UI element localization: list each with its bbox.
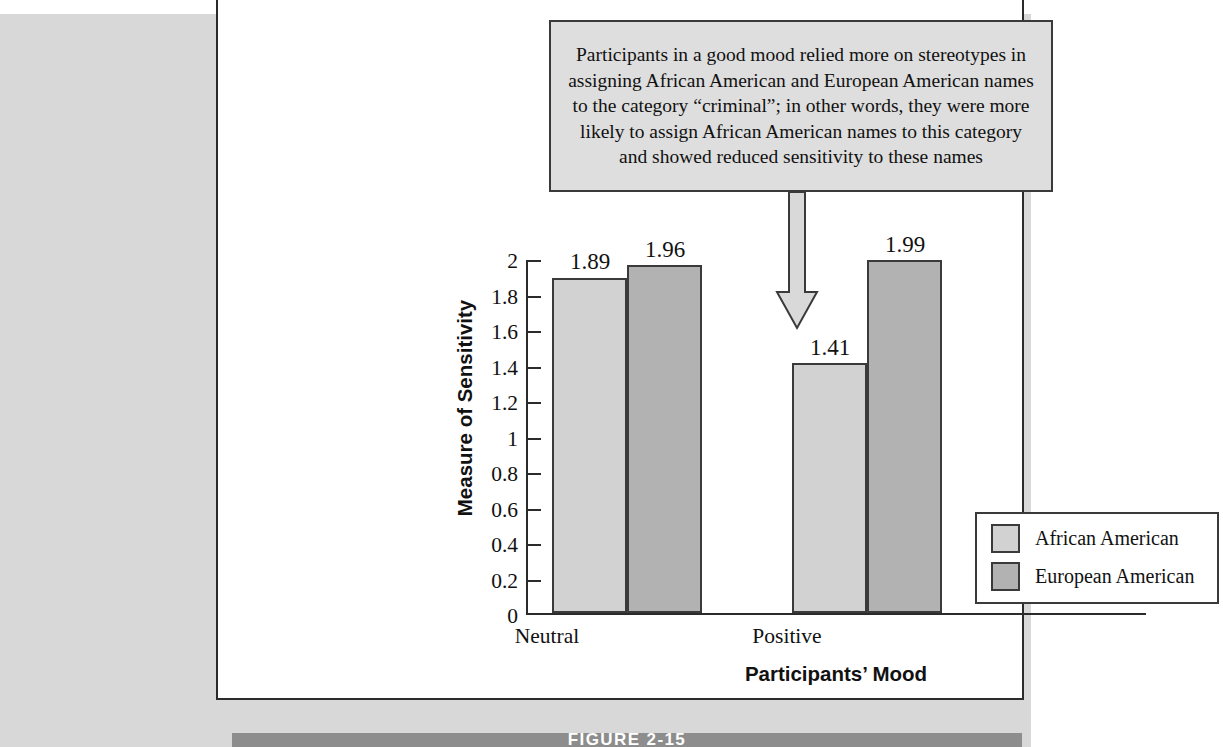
x-axis-title: Participants’ Mood [526,662,1146,686]
callout-box: Participants in a good mood relied more … [549,20,1053,192]
legend-label: European American [1035,565,1194,588]
bar-neutral-european-american [627,265,702,613]
y-tick-label: 1.2 [448,391,518,416]
figure-caption-bar: FIGURE 2-15 [232,733,1022,747]
y-tick-label: 1.8 [448,285,518,310]
callout-text: Participants in a good mood relied more … [551,42,1051,170]
bar-positive-african-american [792,363,867,613]
y-tick-label: 0.6 [448,498,518,523]
y-tick-label: 0.8 [448,462,518,487]
legend-swatch-light [991,524,1020,553]
legend-swatch-dark [991,562,1020,591]
x-axis-line [526,613,1146,615]
bar-neutral-african-american [552,278,627,614]
chart-legend: African American European American [975,512,1219,604]
y-tick-label: 1.4 [448,356,518,381]
x-tick-label-neutral: Neutral [457,624,637,649]
bar-value-label: 1.96 [620,237,710,263]
figure-caption-text: FIGURE 2-15 [232,733,1022,747]
y-tick-label: 1 [448,427,518,452]
bar-value-label: 1.41 [785,335,875,361]
x-tick-label-positive: Positive [697,624,877,649]
figure-panel: Participants in a good mood relied more … [216,0,1024,700]
bar-value-label: 1.99 [860,232,950,258]
legend-item-african-american: African American [991,524,1217,553]
legend-item-european-american: European American [991,562,1217,591]
y-tick-label: 1.6 [448,320,518,345]
y-tick-label: 0.2 [448,569,518,594]
y-tick-label: 0.4 [448,533,518,558]
bar-positive-european-american [867,260,942,613]
y-tick-label: 2 [448,249,518,274]
legend-label: African American [1035,527,1179,550]
